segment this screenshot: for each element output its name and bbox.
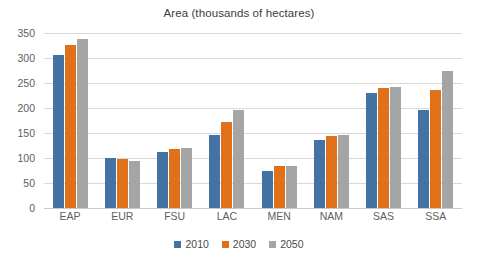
y-axis-tick-label: 250	[17, 77, 35, 89]
bar-ssa-2010[interactable]	[418, 110, 429, 208]
y-axis-tick-label: 50	[23, 177, 35, 189]
x-axis-tick-label-fsu: FSU	[149, 210, 201, 222]
bar-sas-2010[interactable]	[366, 93, 377, 209]
bar-fsu-2050[interactable]	[181, 148, 192, 208]
y-axis-tick-label: 300	[17, 52, 35, 64]
legend-swatch-icon	[269, 241, 276, 248]
bar-group-men	[253, 33, 305, 208]
bar-group-eur	[96, 33, 148, 208]
legend-item-2050[interactable]: 2050	[269, 238, 303, 250]
bar-men-2050[interactable]	[286, 166, 297, 209]
bar-group-lac	[201, 33, 253, 208]
x-axis-tick-label-men: MEN	[253, 210, 305, 222]
bar-eap-2010[interactable]	[53, 55, 64, 208]
legend-label: 2010	[185, 238, 208, 250]
y-axis-tick-label: 350	[17, 27, 35, 39]
bar-nam-2050[interactable]	[338, 135, 349, 209]
bar-eur-2050[interactable]	[129, 161, 140, 209]
bar-ssa-2050[interactable]	[442, 71, 453, 208]
y-axis-tick-label: 0	[29, 202, 35, 214]
bar-eap-2050[interactable]	[77, 39, 88, 208]
legend-swatch-icon	[174, 241, 181, 248]
x-axis: EAPEURFSULACMENNAMSASSSA	[44, 210, 462, 222]
legend-item-2010[interactable]: 2010	[174, 238, 208, 250]
bar-group-ssa	[410, 33, 462, 208]
x-axis-tick-label-ssa: SSA	[410, 210, 462, 222]
bars-layer	[44, 33, 462, 208]
bar-lac-2010[interactable]	[209, 135, 220, 209]
bar-group-eap	[44, 33, 96, 208]
bar-sas-2050[interactable]	[390, 87, 401, 209]
y-axis: 350300250200150100500	[0, 33, 40, 208]
bar-group-fsu	[149, 33, 201, 208]
x-axis-tick-label-eap: EAP	[44, 210, 96, 222]
x-axis-tick-label-lac: LAC	[201, 210, 253, 222]
bar-group-sas	[358, 33, 410, 208]
chart-title: Area (thousands of hectares)	[0, 7, 478, 19]
bar-group-nam	[305, 33, 357, 208]
legend: 201020302050	[0, 238, 478, 250]
bar-chart: Area (thousands of hectares) 35030025020…	[0, 0, 478, 260]
bar-men-2010[interactable]	[262, 171, 273, 209]
x-axis-tick-label-nam: NAM	[305, 210, 357, 222]
bar-nam-2010[interactable]	[314, 140, 325, 209]
bar-nam-2030[interactable]	[326, 136, 337, 208]
bar-eur-2010[interactable]	[105, 158, 116, 208]
legend-label: 2050	[280, 238, 303, 250]
x-axis-tick-label-sas: SAS	[358, 210, 410, 222]
y-axis-tick-label: 150	[17, 127, 35, 139]
axis-baseline	[44, 208, 462, 209]
legend-item-2030[interactable]: 2030	[222, 238, 256, 250]
y-axis-tick-label: 100	[17, 152, 35, 164]
bar-fsu-2030[interactable]	[169, 149, 180, 209]
bar-eur-2030[interactable]	[117, 159, 128, 208]
bar-eap-2030[interactable]	[65, 45, 76, 208]
legend-label: 2030	[233, 238, 256, 250]
bar-men-2030[interactable]	[274, 166, 285, 208]
x-axis-tick-label-eur: EUR	[96, 210, 148, 222]
bar-ssa-2030[interactable]	[430, 90, 441, 209]
legend-swatch-icon	[222, 241, 229, 248]
bar-lac-2030[interactable]	[221, 122, 232, 208]
y-axis-tick-label: 200	[17, 102, 35, 114]
bar-sas-2030[interactable]	[378, 88, 389, 208]
bar-lac-2050[interactable]	[233, 110, 244, 208]
bar-fsu-2010[interactable]	[157, 152, 168, 209]
